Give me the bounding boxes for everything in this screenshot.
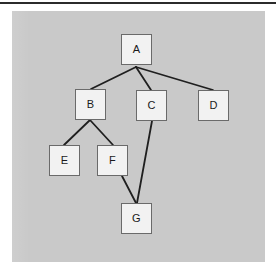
graph-edge-b-f bbox=[90, 120, 113, 145]
graph-node-label: B bbox=[87, 99, 95, 110]
graph-node-c[interactable]: C bbox=[136, 90, 167, 121]
graph-node-b[interactable]: B bbox=[75, 89, 106, 120]
graph-node-label: A bbox=[133, 44, 141, 55]
graph-node-e[interactable]: E bbox=[49, 145, 80, 176]
graph-edge-a-b bbox=[91, 67, 136, 89]
screenshot-canvas: ABCDEFG bbox=[0, 0, 276, 277]
graph-node-f[interactable]: F bbox=[97, 145, 128, 176]
graph-edge-c-g bbox=[137, 121, 152, 203]
graph-node-g[interactable]: G bbox=[121, 203, 152, 234]
graph-edge-f-g bbox=[122, 176, 136, 203]
graph-node-label: F bbox=[109, 155, 116, 166]
graph-node-label: E bbox=[61, 155, 69, 166]
graph-edge-a-d bbox=[136, 67, 213, 90]
graph-node-label: G bbox=[132, 213, 141, 224]
graph-node-label: C bbox=[147, 100, 155, 111]
graph-edge-b-e bbox=[64, 120, 90, 145]
graph-node-d[interactable]: D bbox=[198, 90, 229, 121]
graph-edge-a-c bbox=[136, 67, 151, 90]
graph-node-a[interactable]: A bbox=[121, 34, 152, 65]
tree-graph: ABCDEFG bbox=[0, 0, 276, 277]
graph-node-label: D bbox=[209, 100, 217, 111]
